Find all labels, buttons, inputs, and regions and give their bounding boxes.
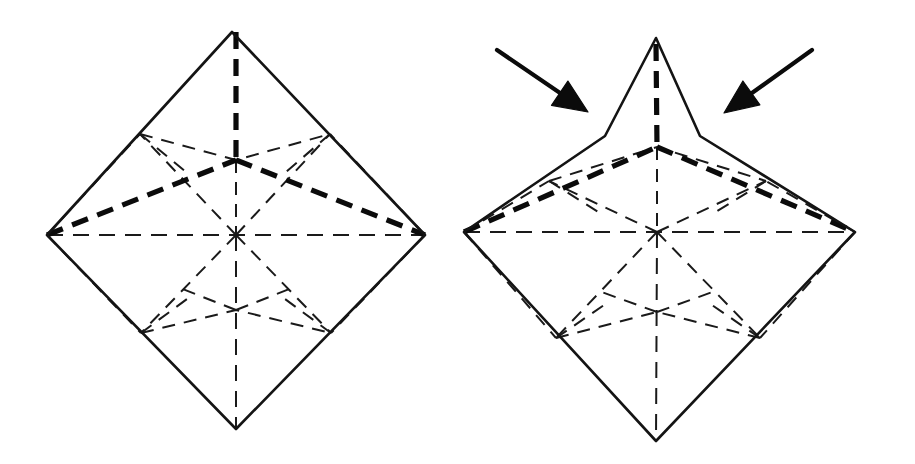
crease-center-to-lower-left-mid-r	[556, 232, 657, 338]
crease-lower-junction-right-ray-r	[657, 290, 718, 312]
crease-center-to-upper-right-mid	[236, 134, 330, 235]
arrow-right-group	[724, 50, 812, 113]
panel-left	[47, 32, 425, 429]
crease-spur-lower-left-r	[556, 303, 607, 338]
crease-center-to-upper-left-mid	[140, 134, 236, 235]
right-folded-outline	[464, 38, 855, 441]
push-arrow-left-head	[552, 81, 589, 112]
panel-right	[464, 38, 855, 441]
crease-midedge-ll-to-lr-r	[556, 312, 760, 338]
crease-lower-junction-left-ray-r	[596, 290, 657, 312]
origami-figure: Origami crease-pattern step: petal fold …	[0, 0, 915, 464]
bold-fold-left-wing	[47, 160, 236, 235]
left-thin-creases	[47, 134, 425, 429]
crease-lower-junction-right-ray	[236, 288, 292, 310]
push-arrow-right-head	[724, 81, 760, 113]
bold-fold-vertical-r	[656, 44, 657, 147]
crease-spur-lower-right	[285, 299, 331, 333]
crease-center-to-lower-right-mid-r	[657, 232, 760, 338]
crease-center-to-lower-left-mid	[141, 235, 236, 333]
bold-fold-right-wing-r	[657, 147, 855, 232]
arrow-left-group	[497, 50, 588, 112]
crease-spur-upper-right-r	[714, 181, 766, 213]
crease-center-to-lower-right-mid	[236, 235, 331, 333]
crease-spur-lower-right-r	[709, 303, 760, 338]
bold-fold-right-wing	[236, 160, 425, 235]
crease-center-to-upper-right-mid-r	[657, 181, 766, 232]
crease-lower-junction-left-ray	[180, 288, 236, 310]
figure-canvas	[0, 0, 915, 464]
right-bold-fold	[464, 44, 855, 232]
crease-spur-upper-right	[286, 134, 330, 172]
crease-vertical-diagonal-lower-r	[656, 232, 657, 441]
